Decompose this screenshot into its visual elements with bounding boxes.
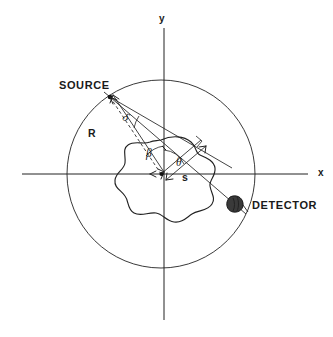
fan-ray-upper [110,97,232,168]
angle-beta-label: β [146,148,152,160]
origin-point [159,172,163,176]
distance-R-measure [113,95,164,172]
angle-theta-label: θ [176,157,182,169]
diagram-canvas [0,0,333,337]
distance-s-label: s [182,172,188,183]
x-axis-label: x [318,168,324,178]
source-label: SOURCE [59,80,110,91]
y-axis-label: y [159,14,165,24]
detector-label: DETECTOR [252,200,317,211]
radius-label: R [88,128,96,139]
ct-geometry-diagram: SOURCE DETECTOR x y R δ β θ s [0,0,333,337]
distance-R-line [110,97,161,174]
detector-leader-line [243,205,248,212]
